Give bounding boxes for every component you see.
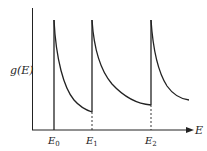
x-axis-label: E: [194, 124, 203, 137]
y-axis-label: g(E): [10, 64, 34, 77]
decay-curve-2: [151, 20, 189, 100]
tick-label-E2: E2: [144, 135, 157, 148]
decay-curve-0: [54, 20, 92, 112]
x-axis-arrow-icon: [186, 127, 194, 133]
tick-label-E1: E1: [85, 135, 98, 148]
tick-label-E0: E0: [47, 135, 60, 148]
dos-diagram: g(E) E E0 E1 E2: [0, 0, 207, 151]
decay-curve-1: [92, 20, 151, 105]
